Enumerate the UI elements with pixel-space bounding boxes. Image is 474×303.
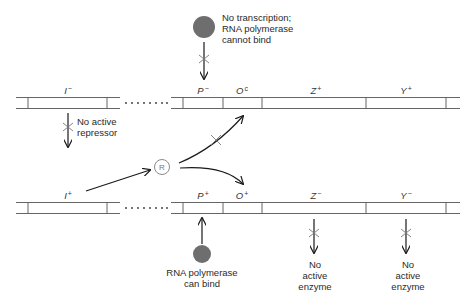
gene-label-top-z: Z+ bbox=[311, 85, 322, 96]
repressor-to-bottom-operator-arrow bbox=[180, 168, 243, 184]
no-active-repressor-note: No active repressor bbox=[77, 116, 117, 138]
gene-label-bottom-y: Y− bbox=[400, 190, 411, 201]
gene-label-top-i: I− bbox=[64, 85, 72, 96]
rna-polymerase-bottom-icon bbox=[193, 245, 211, 263]
block-cross-icon bbox=[211, 135, 221, 145]
gene-label-bottom-i: I+ bbox=[64, 190, 72, 201]
gene-label-top-y: Y+ bbox=[400, 85, 411, 96]
top-dna-strand bbox=[16, 98, 460, 109]
gene-label-bottom-p: P+ bbox=[197, 190, 208, 201]
gene-label-bottom-o: O+ bbox=[236, 190, 248, 201]
top-ellipsis-dots bbox=[125, 102, 168, 104]
z-no-active-enzyme-note: No active enzyme bbox=[298, 259, 331, 292]
repressor-production-arrow bbox=[86, 170, 150, 191]
bottom-ellipsis-dots bbox=[125, 207, 168, 209]
polymerase-can-bind-note: RNA polymerase can bind bbox=[166, 267, 237, 289]
gene-label-bottom-z: Z− bbox=[311, 190, 322, 201]
no-transcription-note: No transcription; RNA polymerase cannot … bbox=[222, 12, 293, 45]
gene-label-top-o: Oc bbox=[236, 85, 248, 96]
bottom-dna-strand bbox=[16, 203, 460, 214]
repressor-to-top-operator-arrow bbox=[179, 116, 243, 163]
gene-label-top-p: P− bbox=[197, 85, 208, 96]
lac-operon-diagram bbox=[0, 0, 474, 303]
rna-polymerase-top-icon bbox=[193, 16, 215, 38]
repressor-label: R bbox=[159, 163, 165, 172]
y-no-active-enzyme-note: No active enzyme bbox=[391, 259, 424, 292]
